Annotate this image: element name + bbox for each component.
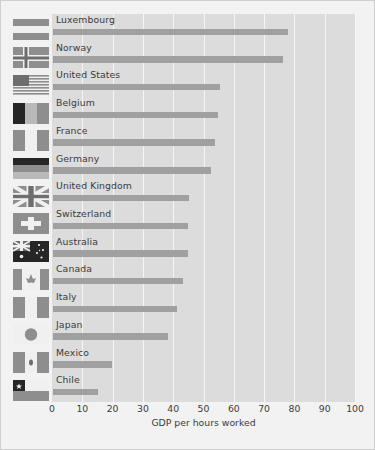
bar-row[interactable]: Mexico <box>52 347 355 375</box>
x-tick-label: 10 <box>76 403 88 414</box>
bar-row[interactable]: Switzerland <box>52 208 355 236</box>
bar-row-label: Chile <box>56 374 80 385</box>
x-tick-label: 70 <box>258 403 270 414</box>
mexico-flag <box>13 352 49 373</box>
bar-row[interactable]: Australia <box>52 236 355 264</box>
australia-flag <box>13 241 49 262</box>
italy-flag <box>13 297 49 318</box>
x-axis-label: GDP per hours worked <box>52 417 355 428</box>
x-tick-label: 100 <box>346 403 364 414</box>
bar-row-label: Mexico <box>56 347 89 358</box>
bar-row-label: United States <box>56 69 120 80</box>
bar[interactable] <box>53 84 220 91</box>
germany-flag <box>13 158 49 179</box>
bar-row-label: Canada <box>56 263 92 274</box>
chile-flag <box>13 380 49 401</box>
bar[interactable] <box>53 56 283 63</box>
bar-row-label: Belgium <box>56 97 95 108</box>
bar-row-label: Japan <box>56 319 82 330</box>
bar[interactable] <box>53 389 98 396</box>
belgium-flag <box>13 103 49 124</box>
bar-row[interactable]: United Kingdom <box>52 180 355 208</box>
bar-row[interactable]: Italy <box>52 291 355 319</box>
bar-row[interactable]: Norway <box>52 42 355 70</box>
bar[interactable] <box>53 306 177 313</box>
luxembourg-flag <box>13 19 49 40</box>
bar-row[interactable]: Germany <box>52 153 355 181</box>
bar[interactable] <box>53 195 189 202</box>
bar-row[interactable]: Canada <box>52 263 355 291</box>
bar-row-label: Switzerland <box>56 208 111 219</box>
bar-row-label: Luxembourg <box>56 14 115 25</box>
bar-row-label: United Kingdom <box>56 180 132 191</box>
bar[interactable] <box>53 223 188 230</box>
x-tick-label: 50 <box>198 403 210 414</box>
bar-row[interactable]: Luxembourg <box>52 14 355 42</box>
bar-row-label: Norway <box>56 42 92 53</box>
bar-row-label: France <box>56 125 88 136</box>
bar[interactable] <box>53 112 218 119</box>
bar[interactable] <box>53 361 112 368</box>
x-tick-label: 60 <box>228 403 240 414</box>
x-tick-label: 40 <box>167 403 179 414</box>
bar[interactable] <box>53 29 288 36</box>
x-tick-label: 90 <box>319 403 331 414</box>
france-flag <box>13 130 49 151</box>
switzerland-flag <box>13 213 49 234</box>
bar-row[interactable]: Japan <box>52 319 355 347</box>
gridline <box>355 14 356 402</box>
bar-row[interactable]: Belgium <box>52 97 355 125</box>
bar-rows: LuxembourgNorwayUnited StatesBelgiumFran… <box>52 14 355 402</box>
bar-row-label: Italy <box>56 291 77 302</box>
united-states-flag <box>13 75 49 96</box>
norway-flag <box>13 47 49 68</box>
x-tick-label: 80 <box>288 403 300 414</box>
bar-row-label: Germany <box>56 153 99 164</box>
flag-column <box>13 14 49 402</box>
bar[interactable] <box>53 278 183 285</box>
bar[interactable] <box>53 139 215 146</box>
x-tick-label: 30 <box>137 403 149 414</box>
bar[interactable] <box>53 250 188 257</box>
bar-row-label: Australia <box>56 236 98 247</box>
gdp-per-hours-worked-chart: LuxembourgNorwayUnited StatesBelgiumFran… <box>0 0 375 450</box>
x-tick-label: 0 <box>49 403 55 414</box>
bar-row[interactable]: France <box>52 125 355 153</box>
bar[interactable] <box>53 333 168 340</box>
bar-row[interactable]: United States <box>52 69 355 97</box>
japan-flag <box>13 324 49 345</box>
bar-row[interactable]: Chile <box>52 374 355 402</box>
x-tick-label: 20 <box>107 403 119 414</box>
united-kingdom-flag <box>13 186 49 207</box>
bar[interactable] <box>53 167 211 174</box>
canada-flag <box>13 269 49 290</box>
